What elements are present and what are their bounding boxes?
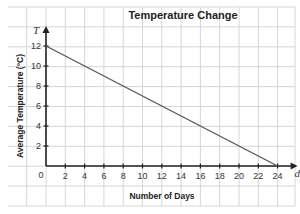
x-tick-label: 4	[82, 171, 87, 181]
y-tick-label: 2	[36, 141, 41, 151]
x-tick-label: 2	[63, 171, 68, 181]
x-tick-label: 16	[195, 171, 205, 181]
x-tick-label: 14	[176, 171, 186, 181]
chart-title: Temperature Change	[128, 9, 237, 21]
y-axis-title: Average Temperature (°C)	[15, 54, 25, 158]
y-tick-label: 4	[36, 121, 41, 131]
origin-label: 0	[38, 170, 43, 180]
y-tick-label: 6	[36, 101, 41, 111]
x-tick-label: 24	[273, 171, 283, 181]
temperature-change-chart: Temperature Change 24681012141618202224 …	[0, 0, 300, 214]
plot-area: 24681012141618202224 24681012 0 d T	[31, 24, 300, 181]
y-tick-label: 8	[36, 81, 41, 91]
x-tick-label: 8	[121, 171, 126, 181]
x-tick-label: 20	[234, 171, 244, 181]
x-tick-label: 10	[137, 171, 147, 181]
grid-lines	[8, 7, 295, 206]
x-tick-label: 6	[101, 171, 106, 181]
x-tick-label: 18	[215, 171, 225, 181]
y-variable-label: T	[33, 24, 40, 36]
x-tick-label: 12	[157, 171, 167, 181]
x-axis-title: Number of Days	[129, 191, 194, 201]
y-tick-label: 10	[31, 61, 41, 71]
x-variable-label: d	[295, 167, 300, 179]
y-tick-label: 12	[31, 41, 41, 51]
x-tick-label: 22	[253, 171, 263, 181]
